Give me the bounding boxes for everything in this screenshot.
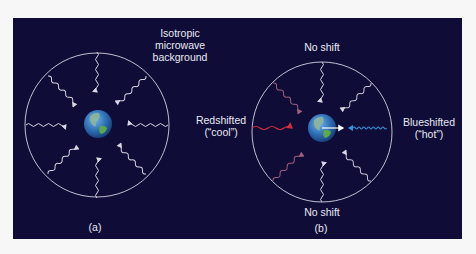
earth-icon — [84, 110, 112, 138]
panel-a — [25, 52, 169, 198]
panel-b — [252, 62, 392, 202]
caption-a: (a) — [80, 221, 110, 233]
redshift-diagonal-waves — [272, 82, 302, 182]
title-line-2: microwave — [148, 39, 212, 51]
redshifted-wave — [252, 127, 292, 130]
blueshift-diagonal-waves — [342, 82, 372, 182]
blueshift-label-line-2: (“hot”) — [396, 128, 462, 140]
bottom-no-shift-label: No shift — [294, 206, 350, 218]
panel-a-title: Isotropic microwave background — [148, 27, 212, 63]
title-line-1: Isotropic — [148, 27, 212, 39]
redshift-label: Redshifted (“cool”) — [192, 114, 250, 138]
caption-b: (b) — [306, 222, 336, 234]
blueshifted-wave — [349, 127, 387, 129]
top-no-shift-label: No shift — [294, 41, 350, 53]
blueshift-label: Blueshifted (“hot”) — [396, 116, 462, 140]
redshift-label-line-2: (“cool”) — [192, 126, 250, 138]
blueshift-label-line-1: Blueshifted — [396, 116, 462, 128]
title-line-3: background — [148, 51, 212, 63]
redshift-label-line-1: Redshifted — [192, 114, 250, 126]
